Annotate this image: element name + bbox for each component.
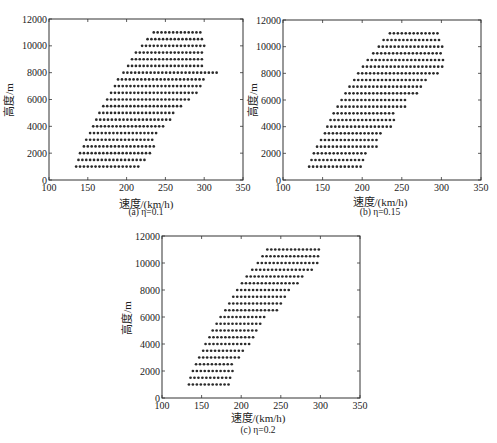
data-point xyxy=(104,159,107,162)
data-point xyxy=(96,125,99,128)
data-point xyxy=(240,336,243,339)
data-point xyxy=(416,92,419,95)
data-point xyxy=(366,125,369,128)
data-point xyxy=(149,85,152,88)
data-point xyxy=(94,165,97,168)
data-point xyxy=(98,152,101,155)
data-point xyxy=(98,112,101,115)
data-point xyxy=(326,159,329,162)
y-tick-label: 10000 xyxy=(256,41,281,52)
data-point xyxy=(393,119,396,122)
data-point xyxy=(368,112,371,115)
data-point xyxy=(192,383,195,386)
data-point xyxy=(358,159,361,162)
data-point xyxy=(169,51,172,54)
data-point xyxy=(89,132,92,135)
x-tick-label: 350 xyxy=(353,400,368,411)
data-point xyxy=(350,159,353,162)
data-point xyxy=(251,316,254,319)
data-point xyxy=(255,322,258,325)
data-point xyxy=(89,159,92,162)
data-point xyxy=(229,376,232,379)
data-point xyxy=(369,72,372,75)
data-point xyxy=(160,112,163,115)
data-point xyxy=(361,119,364,122)
data-point xyxy=(197,65,200,68)
data-point xyxy=(372,92,375,95)
data-point xyxy=(86,165,89,168)
data-point xyxy=(344,99,347,102)
data-point xyxy=(353,119,356,122)
data-point xyxy=(255,329,258,332)
data-point xyxy=(141,152,144,155)
data-point xyxy=(330,125,333,128)
data-point xyxy=(388,92,391,95)
data-point xyxy=(400,79,403,82)
y-tick-label: 6000 xyxy=(140,312,160,323)
data-point xyxy=(377,45,380,48)
data-point xyxy=(99,118,102,121)
data-point xyxy=(135,58,138,61)
data-point xyxy=(288,282,291,285)
data-point xyxy=(114,98,117,101)
data-point xyxy=(272,282,275,285)
data-point xyxy=(281,275,284,278)
data-point xyxy=(268,282,271,285)
data-point xyxy=(108,159,111,162)
data-point xyxy=(173,71,176,74)
data-point xyxy=(149,112,152,115)
data-point xyxy=(380,52,383,55)
data-point xyxy=(83,165,86,168)
panel-c: 1001502002503003500200040006000800010000… xyxy=(120,231,368,437)
data-point xyxy=(231,329,234,332)
data-point xyxy=(177,65,180,68)
data-point xyxy=(114,152,117,155)
y-tick-label: 12000 xyxy=(135,231,160,242)
data-point xyxy=(143,132,146,135)
data-point xyxy=(373,119,376,122)
data-point xyxy=(255,268,258,271)
data-point xyxy=(222,356,225,359)
data-point xyxy=(137,152,140,155)
data-point xyxy=(193,58,196,61)
data-point xyxy=(192,370,195,373)
data-point xyxy=(429,45,432,48)
data-point xyxy=(142,125,145,128)
data-point xyxy=(124,78,127,81)
data-point xyxy=(292,282,295,285)
data-point xyxy=(408,52,411,55)
data-point xyxy=(268,295,271,298)
data-point xyxy=(441,65,444,68)
data-point xyxy=(232,309,235,312)
data-point xyxy=(396,105,399,108)
data-point xyxy=(133,85,136,88)
data-point xyxy=(371,139,374,142)
data-point xyxy=(204,343,207,346)
data-point xyxy=(356,152,359,155)
data-point xyxy=(199,44,202,47)
data-point xyxy=(191,31,194,34)
data-point xyxy=(366,59,369,62)
data-point xyxy=(347,165,350,168)
data-point xyxy=(114,85,117,88)
data-point xyxy=(370,125,373,128)
data-point xyxy=(106,112,109,115)
data-point xyxy=(413,45,416,48)
data-point xyxy=(237,349,240,352)
data-point xyxy=(187,44,190,47)
data-point xyxy=(310,159,313,162)
data-point xyxy=(296,262,299,265)
data-point xyxy=(376,85,379,88)
data-point xyxy=(197,51,200,54)
y-tick-label: 8000 xyxy=(261,68,281,79)
data-point xyxy=(355,132,358,135)
data-point xyxy=(432,72,435,75)
data-point xyxy=(316,145,319,148)
data-point xyxy=(369,119,372,122)
data-point xyxy=(282,248,285,251)
data-point xyxy=(357,79,360,82)
data-point xyxy=(256,262,259,265)
data-point xyxy=(279,289,282,292)
data-point xyxy=(131,125,134,128)
panel-b-caption: (b) η=0.15 xyxy=(360,207,401,218)
